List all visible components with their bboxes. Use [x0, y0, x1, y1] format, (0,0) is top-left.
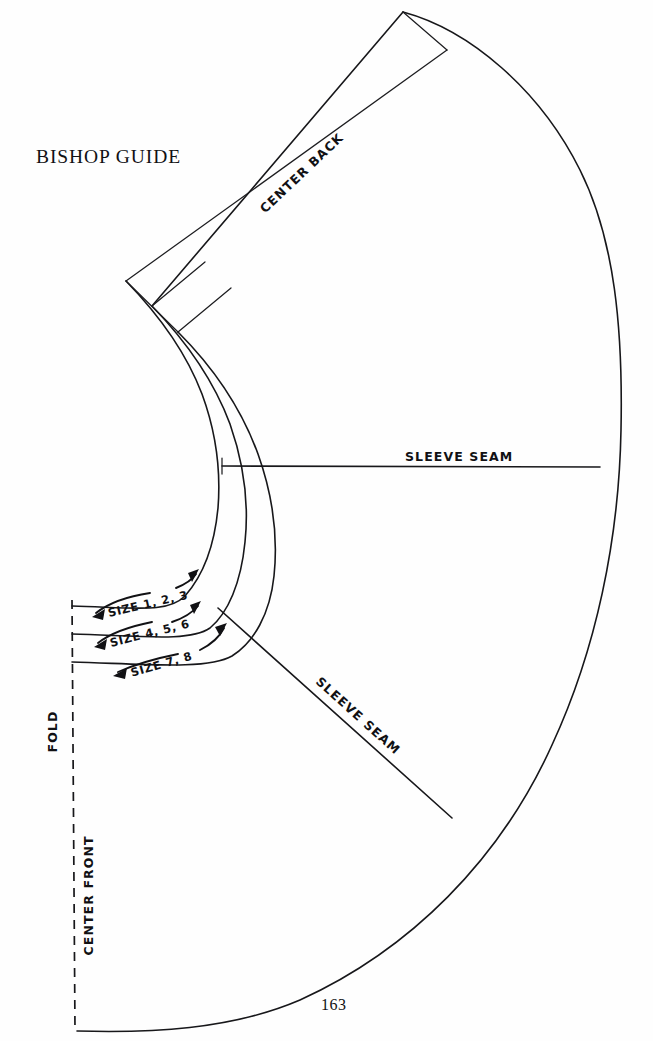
label-center-front: CENTER FRONT: [81, 835, 96, 955]
fold-center-front-dashed-line: [72, 600, 75, 1031]
sleeve-seam-upper-line: [222, 466, 600, 467]
sleeve-seam-lower-group: [218, 608, 452, 818]
page-number: 163: [321, 996, 347, 1014]
page-title: BISHOP GUIDE: [36, 146, 181, 168]
neckline-arc-size-4-5-6: [72, 306, 246, 637]
neckline-notch-line-2: [152, 262, 205, 306]
pattern-sheet: BISHOP GUIDE 163 CENTER BACK SLEEVE SEAM…: [0, 0, 653, 1041]
fold-line-group: [72, 600, 75, 1031]
sleeve-seam-lower-line: [218, 608, 452, 818]
size-band-arrow-3-head-left: [113, 668, 127, 679]
neckline-corner-notches: [126, 262, 231, 332]
label-fold: FOLD: [45, 711, 60, 753]
label-sleeve-seam-upper: SLEEVE SEAM: [405, 449, 513, 464]
neckline-notch-line-3: [178, 288, 231, 332]
size-band-arrow-3-head-right: [215, 623, 227, 636]
neckline-arc-size-1-2-3: [72, 281, 219, 608]
center-back-apex-notch: [403, 12, 447, 50]
center-back-outer-edge: [152, 12, 403, 306]
